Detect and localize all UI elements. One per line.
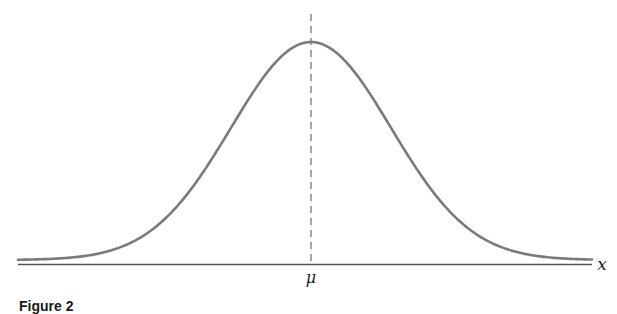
x-axis-label: x — [597, 254, 607, 274]
figure-caption: Figure 2 — [19, 298, 73, 314]
bell-curve — [18, 42, 592, 260]
mu-label: μ — [306, 268, 316, 287]
